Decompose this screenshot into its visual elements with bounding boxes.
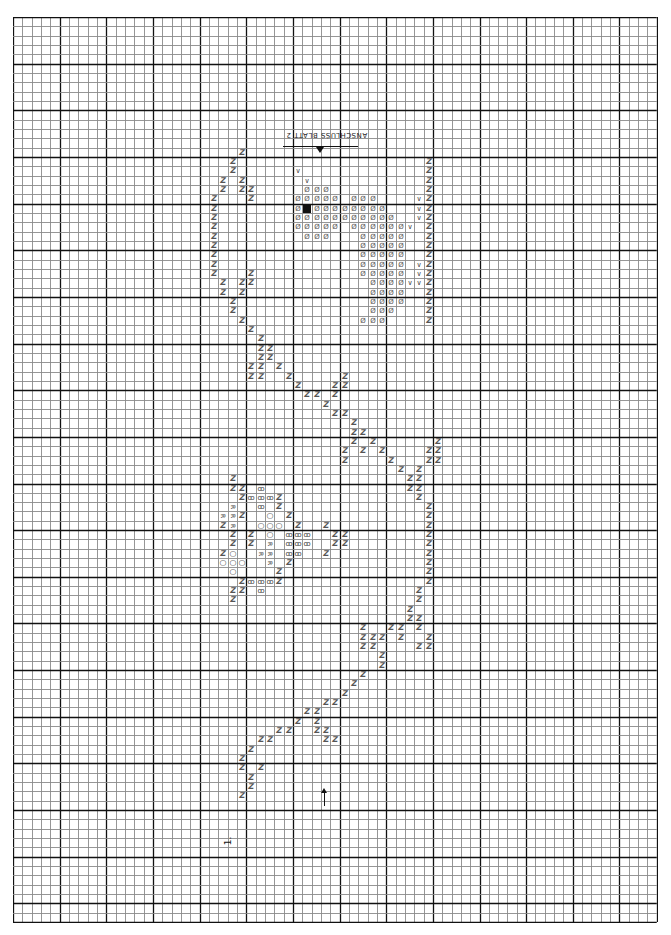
stitch-z: Z (424, 242, 433, 250)
stitch-d: Ø (369, 307, 377, 315)
stitch-z: Z (424, 512, 433, 520)
stitch-z: Z (340, 457, 349, 465)
stitch-z: Z (228, 531, 237, 539)
stitch-d: Ø (387, 242, 395, 250)
stitch-z: Z (414, 494, 423, 502)
stitch-z: Z (433, 438, 442, 446)
stitch-z: Z (377, 447, 386, 455)
stitch-d: Ø (397, 251, 405, 259)
stitch-z: Z (209, 195, 218, 203)
stitch-z: Z (396, 466, 405, 474)
stitch-d: Ø (313, 205, 321, 213)
stitch-z: Z (209, 261, 218, 269)
stitch-x: ꝏ (257, 587, 265, 595)
stitch-d: Ø (387, 270, 395, 278)
stitch-d: Ø (369, 289, 377, 297)
stitch-z: Z (246, 186, 255, 194)
stitch-d: Ø (378, 223, 386, 231)
stitch-r: R (219, 512, 227, 520)
stitch-r: R (266, 550, 274, 558)
stitch-z: Z (349, 438, 358, 446)
stitch-z: Z (302, 391, 311, 399)
stitch-z: Z (424, 568, 433, 576)
stitch-d: Ø (350, 223, 358, 231)
stitch-o: ○ (266, 522, 274, 530)
stitch-z: Z (340, 382, 349, 390)
stitch-d: Ø (378, 214, 386, 222)
stitch-z: Z (321, 401, 330, 409)
stitch-z: Z (246, 270, 255, 278)
stitch-d: Ø (359, 205, 367, 213)
stitch-z: Z (424, 643, 433, 651)
stitch-z: Z (433, 457, 442, 465)
stitch-d: Ø (359, 214, 367, 222)
stitch-x: ꝏ (257, 578, 265, 586)
stitch-d: Ø (387, 251, 395, 259)
stitch-d: Ø (387, 298, 395, 306)
stitch-z: Z (414, 615, 423, 623)
stitch-v: ∨ (294, 167, 302, 175)
stitch-x: ꝏ (247, 578, 255, 586)
stitch-z: Z (274, 568, 283, 576)
stitch-z: Z (340, 373, 349, 381)
stitch-z: Z (396, 624, 405, 632)
stitch-o: ○ (266, 531, 274, 539)
page-number: 1. (223, 837, 233, 846)
stitch-o: ○ (257, 522, 265, 530)
stitch-z: Z (424, 298, 433, 306)
stitch-d: Ø (303, 186, 311, 194)
stitch-d: Ø (369, 205, 377, 213)
stitch-z: Z (256, 363, 265, 371)
stitch-z: Z (209, 242, 218, 250)
stitch-z: Z (246, 373, 255, 381)
stitch-z: Z (377, 652, 386, 660)
stitch-d: Ø (369, 214, 377, 222)
stitch-z: Z (368, 438, 377, 446)
stitch-z: Z (237, 587, 246, 595)
stitch-z: Z (330, 410, 339, 418)
stitch-r: R (266, 559, 274, 567)
stitch-x: ꝏ (285, 531, 293, 539)
stitch-d: Ø (369, 279, 377, 287)
stitch-z: Z (358, 429, 367, 437)
stitch-d: Ø (359, 233, 367, 241)
stitch-z: Z (368, 634, 377, 642)
stitch-z: Z (293, 382, 302, 390)
stitch-z: Z (414, 624, 423, 632)
stitch-d: Ø (359, 270, 367, 278)
stitch-d: Ø (359, 242, 367, 250)
stitch-z: Z (424, 447, 433, 455)
stitch-d: Ø (294, 205, 302, 213)
stitch-z: Z (218, 186, 227, 194)
stitch-z: Z (424, 531, 433, 539)
stitch-d: Ø (313, 233, 321, 241)
stitch-d: Ø (387, 233, 395, 241)
stitch-z: Z (274, 578, 283, 586)
stitch-z: Z (424, 167, 433, 175)
stitch-z: Z (424, 205, 433, 213)
stitch-z: Z (312, 391, 321, 399)
stitch-z: Z (237, 177, 246, 185)
center-marker-icon (316, 147, 324, 153)
stitch-z: Z (330, 736, 339, 744)
stitch-d: Ø (331, 205, 339, 213)
stitch-z: Z (228, 596, 237, 604)
stitch-z: Z (414, 587, 423, 595)
stitch-z: Z (246, 774, 255, 782)
stitch-z: Z (209, 251, 218, 259)
stitch-o: ○ (219, 559, 227, 567)
stitch-z: Z (330, 699, 339, 707)
stitch-z: Z (218, 177, 227, 185)
stitch-z: Z (330, 391, 339, 399)
stitch-z: Z (340, 447, 349, 455)
stitch-d: Ø (378, 317, 386, 325)
stitch-d: Ø (322, 214, 330, 222)
stitch-z: Z (256, 345, 265, 353)
stitch-z: Z (424, 251, 433, 259)
stitch-o: ○ (229, 550, 237, 558)
arrow-head-icon (321, 788, 327, 793)
stitch-d: Ø (303, 223, 311, 231)
stitch-z: Z (424, 223, 433, 231)
stitch-z: Z (246, 531, 255, 539)
stitch-z: Z (414, 485, 423, 493)
